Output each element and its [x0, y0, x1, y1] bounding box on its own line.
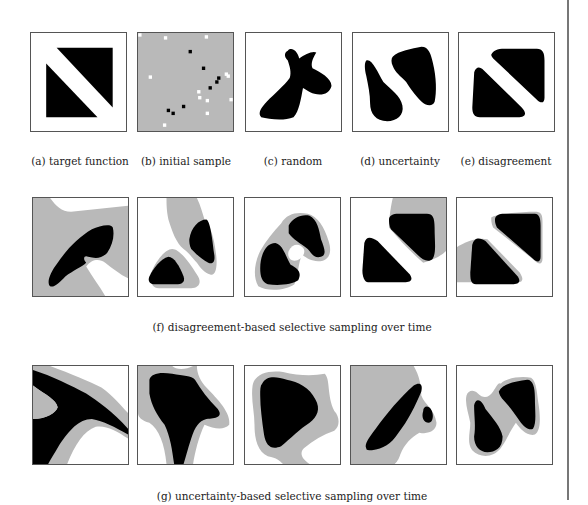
positive-sample-point: [182, 105, 185, 108]
panel-uncertainty-step-3: [244, 365, 341, 465]
panel-uncertainty: [352, 32, 449, 132]
negative-sample-point: [138, 33, 141, 36]
negative-sample-point: [164, 36, 167, 39]
caption-f: (f) disagreement-based selective samplin…: [152, 321, 431, 333]
negative-sample-point: [227, 74, 230, 77]
panel-uncertainty-step-5: [456, 365, 553, 465]
positive-sample-point: [217, 76, 220, 79]
panel-disagreement-step-1: [32, 197, 129, 297]
panel-disagreement: [458, 32, 555, 132]
panel-disagreement-step-4: [350, 197, 447, 297]
negative-sample-point: [206, 99, 209, 102]
panel-uncertainty-step-4: [350, 365, 447, 465]
negative-sample-point: [149, 75, 152, 78]
positive-sample-point: [167, 109, 170, 112]
caption-e: (e) disagreement: [461, 155, 552, 167]
panel-uncertainty-step-1: [32, 365, 129, 465]
panel-uncertainty-step-2: [137, 365, 234, 465]
panel-initial-sample: [137, 32, 234, 132]
positive-sample-point: [209, 86, 212, 89]
panel-disagreement-step-5: [456, 197, 553, 297]
positive-sample-point: [202, 67, 205, 70]
caption-g: (g) uncertainty-based selective sampling…: [157, 490, 427, 502]
negative-sample-point: [229, 98, 232, 101]
negative-sample-point: [198, 96, 201, 99]
panel-disagreement-step-2: [137, 197, 234, 297]
caption-d: (d) uncertainty: [360, 155, 440, 167]
page-margin-rule: [567, 0, 569, 500]
positive-sample-point: [171, 112, 174, 115]
panel-random: [245, 32, 342, 132]
negative-sample-point: [206, 112, 209, 115]
caption-c: (c) random: [264, 155, 322, 167]
positive-sample-point: [189, 50, 192, 53]
positive-sample-point: [215, 80, 218, 83]
random-region: [260, 49, 332, 119]
panel-disagreement-step-3: [244, 197, 341, 297]
panel-target-function: [30, 32, 127, 132]
uncertainty-region-right: [391, 47, 435, 106]
negative-sample-point: [205, 35, 208, 38]
negative-sample-point: [197, 90, 200, 93]
negative-sample-point: [163, 123, 166, 126]
caption-b: (b) initial sample: [141, 155, 231, 167]
caption-a: (a) target function: [31, 155, 129, 167]
